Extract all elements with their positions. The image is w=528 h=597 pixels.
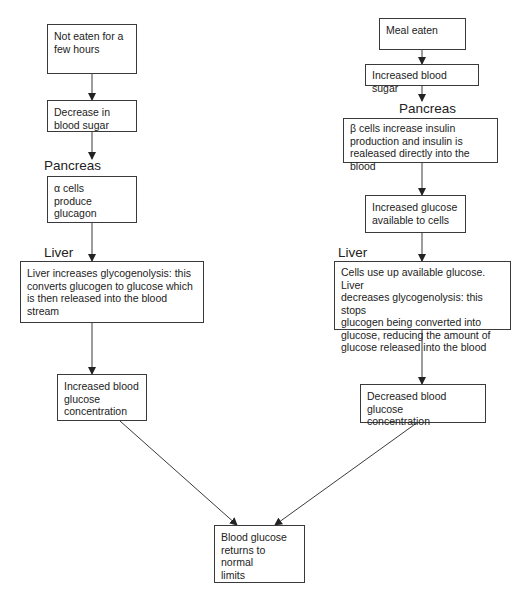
step-liver-increases-glycogenolysis: Liver increases glycogenolysis: this con… (20, 261, 204, 323)
arrow-right-to-outcome (275, 422, 418, 525)
step-liver-decreases-glycogenolysis: Cells use up available glucose. Liver de… (334, 261, 511, 330)
label-pancreas-left: Pancreas (44, 159, 101, 173)
label-pancreas-right: Pancreas (399, 102, 456, 116)
step-beta-cells: β cells increase insulin production and … (343, 118, 498, 163)
step-increased-blood-glucose: Increased blood glucose concentration (57, 374, 147, 421)
label-liver-left: Liver (44, 246, 73, 260)
step-decreased-blood-glucose: Decreased blood glucose concentration (360, 384, 486, 423)
step-alpha-cells: α cells produce glucagon (47, 176, 137, 223)
step-increased-blood-sugar: Increased blood sugar (365, 64, 479, 86)
step-meal-eaten: Meal eaten (379, 18, 466, 50)
step-not-eaten: Not eaten for a few hours (47, 24, 137, 74)
outcome-normal-limits: Blood glucose returns to normal limits (214, 525, 305, 583)
arrow-left-to-outcome (120, 421, 237, 525)
label-liver-right: Liver (338, 246, 367, 260)
step-decrease-blood-sugar: Decrease in blood sugar (47, 100, 137, 132)
step-increased-glucose-available: Increased glucose available to cells (365, 195, 466, 233)
